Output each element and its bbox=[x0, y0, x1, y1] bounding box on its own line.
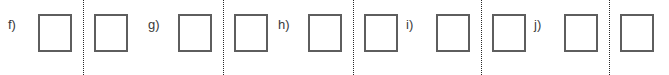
worksheet-exercise-row: f) g) h) i) j) bbox=[0, 0, 669, 75]
fold-line-f bbox=[83, 0, 84, 75]
exercise-label-f: f) bbox=[8, 18, 16, 31]
fold-line-g bbox=[223, 0, 224, 75]
fold-line-i bbox=[481, 0, 482, 75]
answer-box-j-right[interactable] bbox=[620, 14, 654, 52]
answer-box-i-right[interactable] bbox=[492, 14, 526, 52]
exercise-label-h: h) bbox=[278, 18, 290, 31]
answer-box-j-left[interactable] bbox=[564, 14, 598, 52]
answer-box-f-right[interactable] bbox=[94, 14, 128, 52]
exercise-label-i: i) bbox=[406, 18, 413, 31]
answer-box-g-left[interactable] bbox=[178, 14, 212, 52]
answer-box-g-right[interactable] bbox=[234, 14, 268, 52]
answer-box-h-right[interactable] bbox=[364, 14, 398, 52]
exercise-label-j: j) bbox=[534, 18, 541, 31]
answer-box-h-left[interactable] bbox=[308, 14, 342, 52]
answer-box-f-left[interactable] bbox=[38, 14, 72, 52]
answer-box-i-left[interactable] bbox=[436, 14, 470, 52]
fold-line-j bbox=[609, 0, 610, 75]
exercise-label-g: g) bbox=[148, 18, 160, 31]
fold-line-h bbox=[353, 0, 354, 75]
